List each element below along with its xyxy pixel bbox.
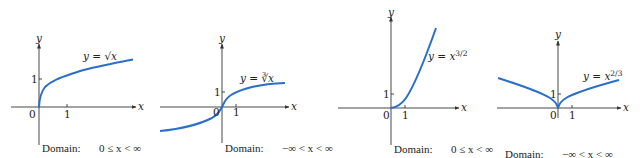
y-axis-label: y: [554, 28, 562, 40]
domain-value: −∞ < x < ∞: [562, 148, 613, 158]
x-tick-label: 1: [569, 109, 576, 121]
caption-x-three-halves: Domain:0 ≤ x < ∞ Range:0 ≤ y < ∞: [394, 117, 493, 158]
domain-label: Domain:: [42, 142, 99, 155]
x-axis-label: x: [138, 100, 144, 112]
x-axis-label: x: [623, 101, 629, 113]
curve-x-two-thirds: [498, 78, 619, 108]
origin-label: 0: [550, 109, 557, 121]
x-axis-label: x: [291, 100, 297, 112]
x-axis-label: x: [461, 101, 467, 113]
equation-label: y = √x: [82, 50, 117, 62]
y-tick-label: 1: [31, 73, 38, 85]
y-axis-label: y: [35, 32, 43, 44]
equation-label: y = x3/2: [427, 49, 468, 62]
domain-row: Domain:−∞ < x < ∞: [225, 142, 333, 155]
domain-label: Domain:: [225, 142, 282, 155]
power-functions-figure: y x 0 1 1 y = √x y x 0 1 1 y = ∛x y x 0 …: [0, 0, 640, 158]
panel-x-two-thirds: y x 0 1 1 y = x2/3: [497, 28, 629, 121]
y-tick-label: 1: [383, 88, 390, 100]
domain-value: −∞ < x < ∞: [282, 142, 333, 154]
domain-row: Domain:0 ≤ x < ∞: [394, 143, 493, 156]
caption-x-two-thirds: Domain:−∞ < x < ∞ Range:0 ≤ y < ∞: [505, 122, 613, 158]
domain-value: 0 ≤ x < ∞: [451, 143, 493, 155]
y-axis-label: y: [387, 6, 395, 18]
curve-sqrt: [39, 60, 133, 108]
domain-label: Domain:: [394, 143, 451, 156]
caption-sqrt: Domain:0 ≤ x < ∞ Range:0 ≤ y < ∞: [42, 116, 141, 158]
y-axis-label: y: [218, 32, 226, 44]
origin-label: 0: [383, 109, 390, 121]
domain-label: Domain:: [505, 148, 562, 158]
caption-cbrt: Domain:−∞ < x < ∞ Range:−∞ < y < ∞: [225, 116, 333, 158]
y-tick-label: 1: [550, 88, 557, 100]
domain-row: Domain:−∞ < x < ∞: [505, 148, 613, 158]
origin-label: 0: [213, 106, 220, 118]
domain-row: Domain:0 ≤ x < ∞: [42, 142, 141, 155]
equation-label: y = ∛x: [239, 72, 274, 84]
y-tick-label: 1: [214, 86, 221, 98]
origin-label: 0: [29, 108, 36, 120]
domain-value: 0 ≤ x < ∞: [99, 142, 141, 154]
curve-x-three-halves: [391, 28, 436, 108]
